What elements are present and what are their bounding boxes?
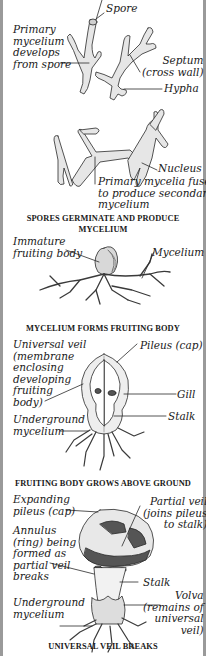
label-underground-mycelium: Underground mycelium — [13, 414, 85, 437]
label-spore: Spore — [106, 3, 137, 15]
caption-fruiting-body-grows: FRUITING BODY GROWS ABOVE GROUND — [0, 478, 206, 489]
label-septum: Septum (cross wall) — [142, 55, 204, 78]
label-primary-mycelium: Primary mycelium develops from spore — [13, 24, 71, 70]
label-volva: Volva (remains of universal veil) — [143, 590, 204, 636]
label-annulus: Annulus (ring) being formed as partial v… — [13, 525, 76, 583]
label-expanding-pileus: Expanding pileus (cap) — [13, 494, 75, 517]
immature-fruiting-body-illustration — [95, 247, 118, 275]
caption-spores-germinate: SPORES GERMINATE AND PRODUCE MYCELIUM — [0, 213, 206, 235]
label-stalk-2: Stalk — [143, 577, 170, 589]
label-mycelium: Mycelium — [152, 247, 204, 259]
label-stalk: Stalk — [168, 411, 195, 423]
hypha-left-illustration — [67, 19, 101, 94]
label-gill: Gill — [177, 389, 195, 401]
caption-universal-veil-breaks: UNIVERSAL VEIL BREAKS — [0, 641, 206, 652]
caption-mycelium-forms-fruiting-body: MYCELIUM FORMS FRUITING BODY — [0, 323, 206, 334]
label-underground-mycelium-2: Underground mycelium — [13, 597, 85, 620]
label-hypha: Hypha — [164, 83, 199, 95]
label-immature-fruiting-body: Immature fruiting body — [13, 236, 82, 259]
label-nucleus: Nucleus — [158, 163, 202, 175]
label-partial-veil: Partial veil (joins pileus to stalk) — [143, 496, 206, 531]
growing-fruiting-body-illustration — [82, 354, 129, 434]
label-universal-veil: Universal veil (membrane enclosing devel… — [13, 339, 86, 408]
label-primary-mycelia-fuse: Primary mycelia fuse to produce secondar… — [98, 176, 206, 211]
label-pileus: Pileus (cap) — [140, 340, 203, 352]
